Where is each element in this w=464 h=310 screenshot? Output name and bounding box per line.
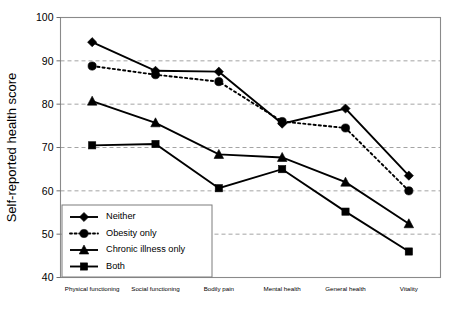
x-tick-label-1: Social functioning [131,285,180,292]
data-point-1-3 [278,117,286,125]
data-point-2-5 [404,219,414,228]
legend-marker-square-icon [80,263,87,270]
data-point-3-4 [342,208,349,215]
x-tick-label-4: General health [325,285,366,292]
data-point-1-1 [151,71,159,79]
legend: NeitherObesity onlyChronic illness onlyB… [62,205,212,277]
data-point-2-0 [87,96,97,105]
legend-label-2: Chronic illness only [106,244,186,254]
y-tick-label-90: 90 [42,55,54,67]
data-point-3-3 [279,166,286,173]
y-axis-title: Self-reported health score [4,73,19,223]
data-point-0-0 [88,38,97,47]
y-tick-label-50: 50 [42,228,54,240]
y-tick-label-60: 60 [42,185,54,197]
chart-canvas: 405060708090100Self-reported health scor… [0,0,464,310]
series-line-1 [92,66,409,191]
series-neither [88,38,414,181]
data-point-3-5 [405,248,412,255]
y-axis: 405060708090100 [36,11,61,283]
x-tick-label-0: Physical functioning [65,285,120,292]
y-tick-label-80: 80 [42,98,54,110]
line-chart: 405060708090100Self-reported health scor… [0,0,464,310]
legend-label-1: Obesity only [106,228,157,238]
x-tick-label-5: Vitality [400,285,419,292]
y-tick-label-70: 70 [42,141,54,153]
data-point-3-1 [152,140,159,147]
data-point-3-0 [89,142,96,149]
y-tick-label-40: 40 [42,271,54,283]
x-tick-label-2: Bodily pain [204,285,235,292]
x-axis: Physical functioningSocial functioningBo… [65,285,419,292]
legend-label-0: Neither [106,211,136,221]
data-point-1-4 [341,124,349,132]
data-point-1-0 [88,62,96,70]
x-tick-label-3: Mental health [264,285,302,292]
legend-marker-circle-icon [80,229,88,237]
y-tick-label-100: 100 [36,11,54,23]
data-point-1-5 [405,187,413,195]
data-point-1-2 [215,78,223,86]
legend-item-1[interactable]: Obesity only [70,228,157,238]
data-point-3-2 [215,185,222,192]
legend-label-3: Both [106,261,125,271]
